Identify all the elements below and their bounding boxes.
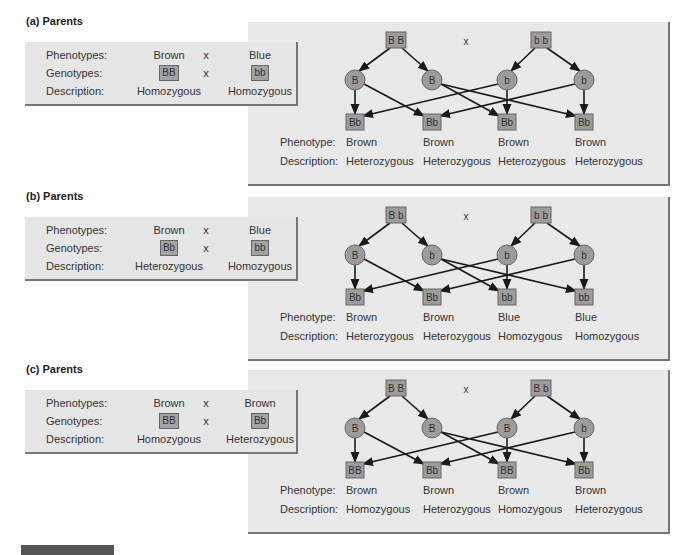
parents-genotypes-row: Genotypes:Bbbbx <box>25 242 296 260</box>
offspring-phenotype: Brown <box>346 311 377 323</box>
parent1-description: Homozygous <box>130 85 208 97</box>
offspring-genotype-label: Bb <box>501 117 514 128</box>
cross-diagram-panel: B Bb bxBBbbBbBbBbBbPhenotype:BrownBrownB… <box>248 22 670 186</box>
cross-symbol: x <box>201 242 211 254</box>
parent-to-gamete-arrow <box>511 396 535 419</box>
gamete-allele-label: b <box>429 250 435 261</box>
offspring-phenotype: Brown <box>423 136 454 148</box>
offspring-phenotype-row: Phenotype:BrownBrownBlueBlue <box>248 311 668 325</box>
offspring-genotype-label: Bb <box>578 465 591 476</box>
gamete-allele-label: b <box>581 250 587 261</box>
offspring-description: Heterozygous <box>346 330 414 342</box>
parent-genotype-label: B B <box>388 35 404 46</box>
parent-genotype-label: b b <box>534 35 548 46</box>
description-label: Description: <box>280 330 338 342</box>
cross-symbol: x <box>201 49 211 61</box>
cross-symbol: x <box>201 415 211 427</box>
parent1-phenotype: Brown <box>130 397 208 409</box>
parent1-genotype: BB <box>130 65 208 81</box>
parents-summary-box: Phenotypes:BrownBluexGenotypes:BbbbxDesc… <box>25 217 298 281</box>
parent-to-gamete-arrow <box>402 48 428 71</box>
offspring-phenotype: Brown <box>423 484 454 496</box>
parent2-description: Homozygous <box>220 260 300 272</box>
section-title: (b) Parents <box>26 190 83 202</box>
offspring-phenotype-row: Phenotype:BrownBrownBrownBrown <box>248 136 668 150</box>
cross-diagram-panel: B BB bxBBBbBBBbBBBbPhenotype:BrownBrownB… <box>248 370 670 534</box>
offspring-genotype-label: Bb <box>349 117 362 128</box>
parent-to-gamete-arrow <box>359 223 390 246</box>
parent-genotype-label: B b <box>388 210 403 221</box>
offspring-phenotype: Brown <box>346 484 377 496</box>
phenotype-label: Phenotype: <box>280 311 336 323</box>
cross-section-a: (a) ParentsB Bb bxBBbbBbBbBbBbPhenotype:… <box>0 0 695 175</box>
offspring-description: Homozygous <box>346 503 410 515</box>
parents-genotypes-row: Genotypes:BBbbx <box>25 67 296 85</box>
parent2-genotype: bb <box>220 65 300 81</box>
cross-symbol: x <box>464 384 469 395</box>
offspring-genotype-label: Bb <box>578 117 591 128</box>
offspring-description: Heterozygous <box>423 155 491 167</box>
cross-symbol: x <box>464 211 469 222</box>
parent2-genotype: bb <box>220 240 300 256</box>
phenotypes-label: Phenotypes: <box>46 224 107 236</box>
offspring-phenotype: Brown <box>346 136 377 148</box>
offspring-phenotype: Brown <box>575 136 606 148</box>
parents-descriptions-row: Description:HomozygousHomozygous <box>25 85 296 103</box>
parent-to-gamete-arrow <box>511 223 535 246</box>
gamete-allele-label: B <box>429 75 436 86</box>
gamete-to-offspring-arrow <box>441 84 499 116</box>
gamete-to-offspring-arrow <box>364 432 424 464</box>
gamete-allele-label: B <box>352 250 359 261</box>
section-title: (a) Parents <box>26 15 83 27</box>
offspring-description-row: Description:HeterozygousHeterozygousHete… <box>248 155 668 169</box>
gamete-allele-label: b <box>504 75 510 86</box>
parent-to-gamete-arrow <box>511 48 535 71</box>
phenotype-label: Phenotype: <box>280 136 336 148</box>
genotypes-label: Genotypes: <box>46 242 102 254</box>
description-label: Description: <box>280 155 338 167</box>
parent1-phenotype: Brown <box>130 224 208 236</box>
parent-to-gamete-arrow <box>402 223 428 246</box>
cross-symbol: x <box>201 397 211 409</box>
offspring-description: Homozygous <box>575 330 639 342</box>
phenotypes-label: Phenotypes: <box>46 49 107 61</box>
offspring-phenotype: Blue <box>575 311 597 323</box>
offspring-description: Homozygous <box>498 503 562 515</box>
parent-genotype-label: B b <box>533 383 548 394</box>
genotypes-label: Genotypes: <box>46 415 102 427</box>
cross-symbol: x <box>201 67 211 79</box>
gamete-allele-label: b <box>504 250 510 261</box>
parents-descriptions-row: Description:HeterozygousHomozygous <box>25 260 296 278</box>
offspring-phenotype: Brown <box>498 484 529 496</box>
gamete-to-offspring-arrow <box>364 259 424 291</box>
parent2-description: Homozygous <box>220 85 300 97</box>
gamete-allele-label: B <box>429 423 436 434</box>
offspring-genotype-label: BB <box>500 465 514 476</box>
offspring-description-row: Description:HeterozygousHeterozygousHomo… <box>248 330 668 344</box>
footer-bar <box>21 545 114 555</box>
offspring-description: Heterozygous <box>575 503 643 515</box>
offspring-genotype-label: Bb <box>426 465 439 476</box>
parent2-description: Heterozygous <box>220 433 300 445</box>
gamete-to-offspring-arrow <box>441 259 499 291</box>
parent2-genotype-box: bb <box>251 240 268 256</box>
offspring-description-row: Description:HomozygousHeterozygousHomozy… <box>248 503 668 517</box>
genotypes-label: Genotypes: <box>46 67 102 79</box>
gamete-allele-label: b <box>581 423 587 434</box>
offspring-description: Heterozygous <box>346 155 414 167</box>
parent-genotype-label: B B <box>388 383 404 394</box>
parent2-phenotype: Brown <box>220 397 300 409</box>
parent1-genotype-box: BB <box>159 65 178 81</box>
offspring-phenotype: Blue <box>498 311 520 323</box>
parent-to-gamete-arrow <box>547 223 580 246</box>
cross-section-b: (b) ParentsB bb bxBbbbBbBbbbbbPhenotype:… <box>0 175 695 350</box>
section-title: (c) Parents <box>26 363 83 375</box>
offspring-phenotype: Brown <box>575 484 606 496</box>
descriptions-label: Description: <box>46 85 104 97</box>
offspring-description: Heterozygous <box>423 330 491 342</box>
gamete-to-offspring-arrow <box>441 432 499 464</box>
parent1-genotype-box: BB <box>159 413 178 429</box>
parent1-phenotype: Brown <box>130 49 208 61</box>
cross-symbol: x <box>464 36 469 47</box>
parents-descriptions-row: Description:HomozygousHeterozygous <box>25 433 296 451</box>
